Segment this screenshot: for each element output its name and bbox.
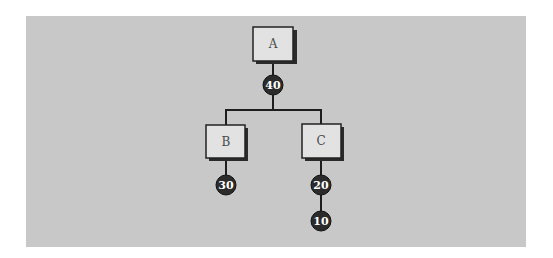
node-c: C <box>302 124 344 161</box>
node-c-label: C <box>316 134 325 148</box>
weight-40: 40 <box>263 75 283 95</box>
node-a: A <box>253 27 297 64</box>
node-b-label: B <box>222 135 231 149</box>
weight-20: 20 <box>311 175 331 195</box>
weight-30: 30 <box>216 175 236 195</box>
weight-30-label: 30 <box>218 179 234 192</box>
weight-10: 10 <box>311 211 331 231</box>
tree-diagram: A B C 40 30 20 10 <box>0 0 553 258</box>
weight-40-label: 40 <box>265 79 281 92</box>
weight-10-label: 10 <box>313 215 329 228</box>
node-b: B <box>206 125 248 161</box>
node-a-label: A <box>268 37 278 51</box>
weight-20-label: 20 <box>313 179 329 192</box>
